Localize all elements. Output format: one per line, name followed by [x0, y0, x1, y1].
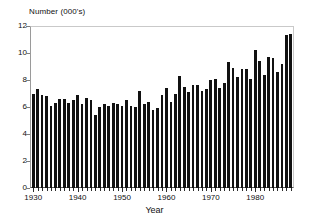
x-axis-tick: [229, 188, 230, 191]
y-axis-tick: [26, 80, 30, 81]
x-axis-tick: [237, 188, 238, 191]
x-axis-major-tick: [33, 188, 34, 192]
bar: [121, 106, 124, 188]
x-axis-tick: [126, 188, 127, 191]
x-axis-tick: [100, 188, 101, 191]
x-axis-tick: [264, 188, 265, 191]
y-axis-tick-label: 4: [1, 130, 27, 138]
bar: [152, 110, 155, 188]
x-axis-tick: [282, 188, 283, 191]
bar: [223, 83, 226, 188]
y-axis-tick: [26, 134, 30, 135]
x-axis-tick: [242, 188, 243, 191]
bar: [45, 96, 48, 188]
x-axis-tick: [104, 188, 105, 191]
x-axis-major-tick: [78, 188, 79, 192]
bar: [85, 98, 88, 188]
bar: [161, 95, 164, 188]
bar: [58, 99, 61, 188]
x-axis-tick: [60, 188, 61, 191]
y-axis-tick: [26, 107, 30, 108]
x-axis-tick: [91, 188, 92, 191]
bar: [272, 58, 275, 188]
bar: [156, 108, 159, 188]
x-axis-tick: [118, 188, 119, 191]
bar: [289, 34, 292, 188]
bar: [218, 88, 221, 188]
x-axis-tick: [64, 188, 65, 191]
bar: [263, 75, 266, 188]
x-axis-tick: [109, 188, 110, 191]
bar: [174, 94, 177, 189]
x-axis-tick: [184, 188, 185, 191]
x-axis-tick: [153, 188, 154, 191]
y-axis-tick: [26, 53, 30, 54]
x-axis-tick: [42, 188, 43, 191]
x-axis-tick: [47, 188, 48, 191]
bars-layer: [31, 26, 293, 188]
bar: [94, 115, 97, 188]
bar: [170, 102, 173, 188]
bar: [32, 94, 35, 189]
x-axis-tick: [180, 188, 181, 191]
bar: [63, 99, 66, 188]
x-axis-tick: [206, 188, 207, 191]
bar: [187, 92, 190, 188]
bar: [245, 69, 248, 188]
bar: [54, 103, 57, 188]
x-axis-tick: [38, 188, 39, 191]
x-axis-tick: [55, 188, 56, 191]
bar: [41, 95, 44, 188]
bar: [50, 106, 53, 188]
x-axis-tick: [233, 188, 234, 191]
x-axis-tick: [215, 188, 216, 191]
x-axis-tick: [224, 188, 225, 191]
x-axis-tick: [273, 188, 274, 191]
bar: [254, 50, 257, 188]
x-axis-major-tick: [255, 188, 256, 192]
x-axis-tick: [113, 188, 114, 191]
x-axis-tick-label: 1950: [107, 193, 137, 202]
bar: [285, 35, 288, 188]
y-axis-tick: [26, 188, 30, 189]
bar: [134, 107, 137, 188]
x-axis-tick: [193, 188, 194, 191]
x-axis-tick: [82, 188, 83, 191]
bar: [232, 68, 235, 188]
bar: [241, 69, 244, 188]
x-axis-tick: [95, 188, 96, 191]
x-axis-tick: [69, 188, 70, 191]
bar-chart: Number (000's) 024681012 193019401950196…: [0, 0, 309, 224]
x-axis-tick: [131, 188, 132, 191]
bar: [281, 64, 284, 188]
x-axis-major-tick: [122, 188, 123, 192]
x-axis-tick: [87, 188, 88, 191]
x-axis-tick: [158, 188, 159, 191]
y-axis-tick: [26, 161, 30, 162]
x-axis-tick-label: 1980: [240, 193, 270, 202]
bar: [116, 104, 119, 188]
x-axis-tick: [144, 188, 145, 191]
bar: [103, 104, 106, 188]
bar: [72, 100, 75, 188]
x-axis-tick-label: 1970: [196, 193, 226, 202]
x-axis-tick-label: 1930: [18, 193, 48, 202]
bar: [201, 91, 204, 188]
bar: [183, 87, 186, 188]
x-axis-tick: [246, 188, 247, 191]
bar: [36, 89, 39, 188]
y-axis-labels: 024681012: [0, 0, 27, 224]
x-axis-tick-label: 1960: [151, 193, 181, 202]
x-axis-tick: [189, 188, 190, 191]
bar: [112, 103, 115, 188]
y-axis-tick-label: 0: [1, 184, 27, 192]
y-axis-tick-label: 12: [1, 22, 27, 30]
bar: [143, 104, 146, 188]
bar: [196, 85, 199, 188]
y-axis-title: Number (000's): [29, 7, 85, 17]
y-axis-tick-label: 6: [1, 103, 27, 111]
bar: [67, 103, 70, 188]
bar: [209, 80, 212, 188]
x-axis-tick: [73, 188, 74, 191]
y-axis-tick-label: 8: [1, 76, 27, 84]
